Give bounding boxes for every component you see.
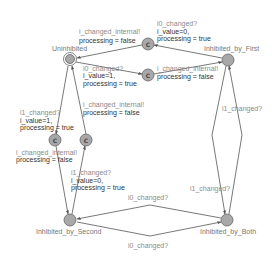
- label-update: processing = false: [79, 37, 136, 45]
- state-inhibited-by-both[interactable]: [221, 214, 233, 226]
- label-update: processing = false: [157, 73, 214, 81]
- state-inhibited-by-second[interactable]: [64, 214, 76, 226]
- state-inhibited-by-first[interactable]: [222, 54, 234, 66]
- state-name-uninhibited: Uninhibited: [52, 45, 87, 52]
- label-sync: i1_changed?: [71, 169, 111, 177]
- committed-label: C: [146, 41, 151, 48]
- label-sync: i1_changed?: [222, 105, 262, 113]
- state-name-inhibited-by-second: Inhibited_by_Second: [36, 228, 101, 236]
- label-update: processing = true: [83, 80, 137, 88]
- committed-state-left[interactable]: C: [49, 134, 61, 146]
- edge-both-to-first-right[interactable]: [229, 66, 242, 214]
- committed-state-right[interactable]: C: [80, 134, 92, 146]
- label-sync: i1_changed?: [190, 185, 230, 193]
- automaton-diagram: C C C C Uninhibited Inhibited_by_First I…: [0, 0, 272, 264]
- label-update: processing = false: [83, 109, 140, 117]
- label-update: processing = true: [157, 35, 211, 43]
- label-sync: i_changed_internal!: [157, 65, 218, 73]
- label-update: processing = true: [71, 184, 125, 192]
- label-sync: i_changed_internal!: [83, 101, 144, 109]
- label-update: processing = true: [20, 124, 74, 132]
- label-update: processing = false: [16, 156, 73, 164]
- committed-label: C: [146, 72, 151, 79]
- state-name-inhibited-by-both: Inhibited_by_Both: [200, 228, 256, 236]
- label-sync: i0_changed?: [128, 242, 168, 250]
- label-update: i_value=1,: [83, 72, 115, 80]
- label-sync: i_changed_internal!: [79, 28, 140, 36]
- state-uninhibited[interactable]: [64, 53, 77, 66]
- label-sync: i0_changed?: [157, 20, 197, 28]
- edge-both-to-second-top[interactable]: [77, 205, 221, 219]
- committed-label: C: [84, 137, 89, 144]
- committed-state-mid[interactable]: C: [142, 69, 154, 81]
- label-sync: i1_changed?: [20, 109, 60, 117]
- committed-state-top[interactable]: C: [142, 38, 154, 50]
- label-sync: i0_changed?: [128, 194, 168, 202]
- state-name-inhibited-by-first: Inhibited_by_First: [204, 45, 259, 53]
- committed-label: C: [53, 137, 58, 144]
